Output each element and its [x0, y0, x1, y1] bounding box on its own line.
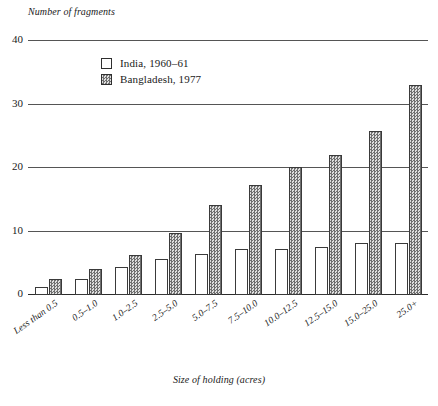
x-tick-label-text: 12.5–15.0	[302, 298, 340, 329]
legend-swatch-icon-india	[101, 58, 112, 69]
bar-india	[115, 267, 128, 295]
bar-bangladesh	[249, 185, 262, 295]
bar-india	[235, 249, 248, 295]
bar-bangladesh	[409, 85, 422, 295]
fragmentation-bar-chart: Number of fragments 010203040 Less than …	[0, 0, 438, 406]
legend-label-india: India, 1960–61	[120, 57, 189, 69]
bar-india	[355, 243, 368, 295]
bar-group	[315, 41, 342, 295]
bar-india	[75, 279, 88, 296]
bar-group	[75, 41, 102, 295]
x-tick-label-text: 0.5–1.0	[70, 298, 100, 323]
x-tick-label-text: 7.5–10.0	[226, 298, 260, 326]
bar-india	[275, 249, 288, 295]
bars-layer	[28, 41, 428, 295]
bar-bangladesh	[329, 155, 342, 295]
y-tick-label-10: 10	[12, 225, 23, 236]
bar-bangladesh	[289, 167, 302, 295]
bar-bangladesh	[169, 233, 182, 295]
bar-group	[355, 41, 382, 295]
x-tick-label-text: 2.5–5.0	[150, 298, 180, 323]
x-tick-label-text: Less than 0.5	[12, 298, 60, 336]
bar-india	[395, 243, 408, 295]
bar-bangladesh	[369, 131, 382, 295]
y-tick-label-20: 20	[12, 161, 23, 172]
x-tick-label-text: 5.0–7.5	[190, 298, 220, 323]
y-tick-label-30: 30	[12, 98, 23, 109]
bar-bangladesh	[129, 255, 142, 295]
x-tick-label-text: 25.0+	[395, 298, 420, 320]
x-tick-label-text: 10.0–12.5	[262, 298, 300, 329]
bar-india	[155, 259, 168, 295]
x-axis-title: Size of holding (acres)	[0, 374, 438, 385]
bar-bangladesh	[49, 279, 62, 295]
y-tick-label-40: 40	[12, 34, 23, 45]
legend-item-bangladesh: Bangladesh, 1977	[101, 71, 201, 87]
bar-group	[235, 41, 262, 295]
bar-bangladesh	[89, 269, 102, 295]
chart-legend: India, 1960–61 Bangladesh, 1977	[101, 55, 201, 87]
legend-swatch-icon-bangladesh	[101, 74, 112, 85]
legend-item-india: India, 1960–61	[101, 55, 201, 71]
bar-group	[395, 41, 422, 295]
x-tick-label-text: 15.0–25.0	[342, 298, 380, 329]
bar-india	[315, 247, 328, 295]
x-tick-labels: Less than 0.50.5–1.01.0–2.52.5–5.05.0–7.…	[28, 298, 428, 368]
bar-group	[275, 41, 302, 295]
plot-area: 010203040	[28, 41, 428, 295]
y-axis-title: Number of fragments	[28, 6, 115, 17]
y-tick-label-0: 0	[18, 288, 24, 299]
x-tick-label-text: 1.0–2.5	[110, 298, 140, 323]
bar-group	[35, 41, 62, 295]
legend-label-bangladesh: Bangladesh, 1977	[120, 73, 201, 85]
bar-india	[35, 287, 48, 295]
bar-india	[195, 254, 208, 295]
bar-bangladesh	[209, 205, 222, 295]
